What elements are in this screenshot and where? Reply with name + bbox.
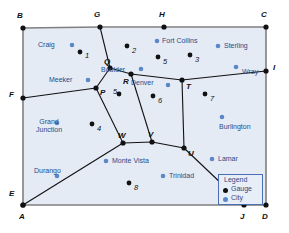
- gauge-dot-4[interactable]: [117, 92, 122, 97]
- map-figure: BGHCIFEAJDQRPTWVU123455678CraigMeekerFor…: [0, 0, 289, 233]
- graph-node-F[interactable]: [20, 95, 25, 100]
- city-dot-3[interactable]: [216, 44, 221, 49]
- city-dot-7[interactable]: [220, 115, 225, 120]
- graph-node-U[interactable]: [181, 145, 186, 150]
- city-dot-6[interactable]: [234, 65, 239, 70]
- graph-node-H[interactable]: [161, 24, 166, 29]
- graph-node-V[interactable]: [149, 139, 154, 144]
- city-dot-10[interactable]: [104, 159, 109, 164]
- gauge-dot-7[interactable]: [203, 92, 208, 97]
- gauge-dot-8[interactable]: [127, 181, 132, 186]
- graph-node-D[interactable]: [263, 202, 268, 207]
- city-dot-2[interactable]: [155, 39, 160, 44]
- graph-node-Q[interactable]: [107, 65, 112, 70]
- graph-node-C[interactable]: [263, 24, 268, 29]
- gauge-swatch-icon: [223, 188, 228, 193]
- graph-node-G[interactable]: [97, 24, 102, 29]
- gauge-dot-3[interactable]: [90, 122, 95, 127]
- legend-label-gauge: Gauge: [231, 185, 252, 192]
- graph-node-A[interactable]: [20, 202, 25, 207]
- city-dot-4[interactable]: [139, 67, 144, 72]
- city-dot-9[interactable]: [55, 174, 60, 179]
- city-swatch-icon: [223, 197, 228, 202]
- gauge-dot-2[interactable]: [188, 53, 193, 58]
- gauge-dot-0[interactable]: [78, 50, 83, 55]
- city-dot-12[interactable]: [210, 157, 215, 162]
- legend-label-city: City: [231, 194, 243, 201]
- legend-title: Legend: [224, 176, 247, 183]
- city-dot-0[interactable]: [70, 43, 75, 48]
- graph-node-R[interactable]: [128, 71, 133, 76]
- graph-node-I[interactable]: [263, 68, 268, 73]
- city-dot-8[interactable]: [55, 121, 60, 126]
- legend-box: Legend Gauge City: [218, 174, 263, 205]
- gauge-dot-1[interactable]: [125, 44, 130, 49]
- gauge-dot-5[interactable]: [156, 55, 161, 60]
- city-dot-5[interactable]: [166, 83, 171, 88]
- city-dot-1[interactable]: [86, 78, 91, 83]
- boundary-segment: [23, 27, 100, 28]
- graph-node-W[interactable]: [120, 140, 125, 145]
- graph-node-T[interactable]: [179, 77, 184, 82]
- graph-node-B[interactable]: [20, 25, 25, 30]
- city-dot-11[interactable]: [161, 174, 166, 179]
- graph-node-P[interactable]: [93, 85, 98, 90]
- gauge-dot-6[interactable]: [151, 94, 156, 99]
